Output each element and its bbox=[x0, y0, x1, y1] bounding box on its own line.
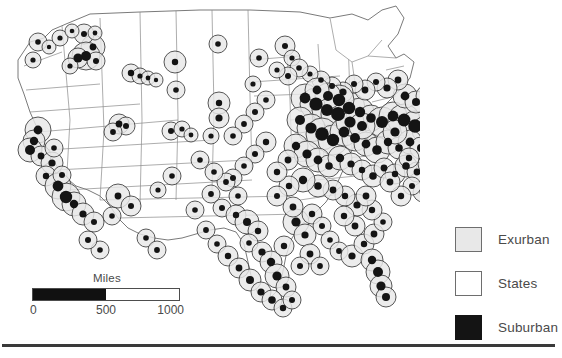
suburban-dot bbox=[383, 84, 390, 91]
suburban-dot bbox=[302, 149, 311, 158]
suburban-dot bbox=[283, 284, 290, 291]
suburban-dot bbox=[286, 183, 292, 189]
suburban-dot bbox=[381, 165, 388, 172]
suburban-dot bbox=[225, 253, 231, 259]
suburban-dot bbox=[197, 157, 203, 163]
suburban-dot bbox=[355, 107, 365, 117]
suburban-dot bbox=[216, 100, 222, 106]
suburban-dot bbox=[366, 113, 376, 123]
suburban-dot bbox=[208, 133, 213, 138]
suburban-dot bbox=[373, 79, 379, 85]
suburban-dot bbox=[342, 193, 348, 199]
suburban-dot bbox=[398, 193, 404, 199]
suburban-dot bbox=[395, 144, 403, 152]
suburban-dot bbox=[110, 129, 116, 135]
suburban-dot bbox=[35, 39, 41, 45]
scale-tick-500: 500 bbox=[96, 303, 116, 317]
suburban-dot bbox=[315, 127, 329, 141]
suburban-dot bbox=[412, 98, 420, 106]
suburban-dot bbox=[241, 121, 247, 127]
suburban-dot bbox=[169, 173, 175, 179]
suburban-dot bbox=[351, 81, 357, 87]
suburban-dot bbox=[70, 200, 78, 208]
suburban-dot bbox=[406, 138, 415, 147]
suburban-dot bbox=[368, 256, 376, 264]
suburban-dot bbox=[97, 247, 103, 253]
suburban-dot bbox=[143, 235, 149, 241]
suburban-dot bbox=[250, 81, 255, 86]
suburban-dot bbox=[154, 247, 160, 253]
suburban-dot bbox=[81, 51, 91, 61]
suburban-dot bbox=[155, 187, 160, 192]
suburban-dot bbox=[60, 191, 72, 203]
scale-bar: Miles 0 500 1000 bbox=[32, 272, 182, 319]
suburban-dot bbox=[53, 181, 64, 192]
suburban-dot bbox=[214, 241, 220, 247]
suburban-dot bbox=[309, 211, 315, 217]
suburban-dot bbox=[359, 167, 365, 173]
suburban-dot bbox=[371, 231, 378, 238]
suburban-dot bbox=[307, 71, 312, 76]
suburban-dot bbox=[401, 92, 410, 101]
suburban-dot bbox=[361, 241, 367, 247]
suburban-dot bbox=[353, 201, 360, 208]
scale-bar-title: Miles bbox=[32, 272, 182, 284]
suburban-dot bbox=[336, 248, 342, 254]
suburban-dot bbox=[30, 137, 38, 145]
suburban-dot bbox=[395, 77, 402, 84]
suburban-dot bbox=[274, 169, 280, 175]
suburban-dot bbox=[289, 297, 295, 303]
suburban-dot bbox=[347, 160, 354, 167]
suburban-dot bbox=[59, 172, 65, 178]
suburban-dot bbox=[296, 65, 302, 71]
suburban-dot bbox=[25, 145, 35, 155]
scale-bar-ticks: 0 500 1000 bbox=[32, 303, 180, 319]
suburban-dot bbox=[172, 59, 178, 65]
suburban-dot bbox=[281, 243, 287, 249]
suburban-dot bbox=[280, 305, 286, 311]
suburban-dot bbox=[314, 156, 323, 165]
suburban-dot bbox=[329, 83, 335, 89]
suburban-dot bbox=[372, 145, 382, 155]
suburban-dot bbox=[90, 44, 97, 51]
suburban-dot bbox=[241, 163, 247, 169]
suburban-dot bbox=[215, 41, 221, 47]
suburban-dot bbox=[93, 31, 98, 36]
suburban-dot bbox=[30, 57, 35, 62]
suburban-dot bbox=[402, 162, 410, 170]
suburban-dot bbox=[307, 251, 314, 258]
suburban-dot bbox=[333, 94, 345, 106]
suburban-dot bbox=[73, 53, 82, 62]
suburban-dot bbox=[252, 109, 258, 115]
suburban-dot bbox=[348, 252, 355, 259]
suburban-dot bbox=[274, 193, 280, 199]
suburban-dot bbox=[352, 223, 359, 230]
legend-label-suburban: Suburban bbox=[498, 320, 558, 335]
legend-swatch-suburban bbox=[455, 315, 482, 340]
suburban-dot bbox=[341, 213, 347, 219]
suburban-dot bbox=[91, 219, 97, 225]
legend-item-suburban[interactable]: Suburban bbox=[455, 314, 558, 340]
suburban-dot bbox=[295, 115, 305, 125]
suburban-dot bbox=[79, 210, 86, 217]
suburban-dot bbox=[236, 265, 243, 272]
suburban-dot bbox=[282, 43, 288, 49]
suburban-dot bbox=[390, 127, 399, 136]
suburban-dot bbox=[255, 228, 261, 234]
suburban-dot bbox=[179, 126, 184, 131]
suburban-dot bbox=[189, 133, 194, 138]
suburban-dot bbox=[203, 227, 209, 233]
suburban-dot bbox=[376, 116, 388, 128]
suburban-dot bbox=[300, 93, 311, 104]
suburban-dot bbox=[325, 162, 333, 170]
legend-item-states[interactable]: States bbox=[455, 270, 558, 296]
suburban-dot bbox=[51, 145, 57, 151]
scale-bar-track bbox=[32, 288, 180, 301]
suburban-dot bbox=[115, 193, 122, 200]
suburban-dot bbox=[246, 276, 254, 284]
suburban-dot bbox=[215, 114, 222, 121]
suburban-dot bbox=[258, 248, 265, 255]
scale-tick-1000: 1000 bbox=[157, 303, 184, 317]
legend-item-exurban[interactable]: Exurban bbox=[455, 226, 558, 252]
suburban-dot bbox=[154, 78, 158, 82]
